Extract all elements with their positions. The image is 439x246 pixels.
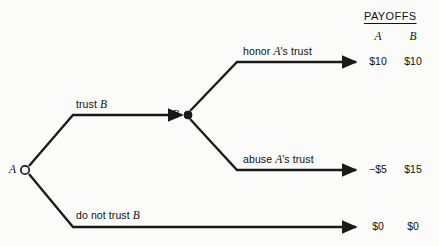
branch-label-honor-suffix: 's trust — [281, 45, 312, 57]
branch-label-abuse-prefix: abuse — [243, 153, 275, 165]
branch-honor-line — [190, 62, 356, 111]
payoffs-column-header-b: B — [398, 30, 428, 42]
branch-label-trust-b-prefix: trust — [76, 98, 100, 110]
branch-label-do-not-trust-b-italic: B — [133, 209, 140, 221]
branch-label-trust-b: trust B — [76, 98, 107, 110]
game-tree-figure: A B trust B do not trust B honor A's tru… — [0, 0, 439, 246]
payoff-honor-a: $10 — [361, 55, 395, 67]
node-label-b: B — [172, 108, 179, 120]
branch-label-abuse-suffix: 's trust — [282, 153, 313, 165]
node-b-filled-circle — [184, 111, 192, 119]
payoffs-title: PAYOFFS — [364, 10, 417, 22]
payoff-abuse-b: $15 — [396, 163, 430, 175]
branch-label-honor: honor A's trust — [243, 45, 312, 57]
branch-label-do-not-trust-b-prefix: do not trust — [76, 209, 133, 221]
payoff-no-trust-a: $0 — [361, 220, 395, 232]
branch-trust-b-line — [29, 115, 182, 166]
payoff-abuse-a: −$5 — [361, 163, 395, 175]
branch-label-do-not-trust-b: do not trust B — [76, 209, 140, 221]
branch-label-honor-prefix: honor — [243, 45, 273, 57]
node-label-a: A — [9, 163, 16, 175]
payoff-honor-b: $10 — [396, 55, 430, 67]
branch-label-honor-italic: A — [273, 45, 280, 57]
branch-label-trust-b-italic: B — [100, 98, 107, 110]
payoff-no-trust-b: $0 — [396, 220, 430, 232]
branch-label-abuse: abuse A's trust — [243, 153, 314, 165]
payoffs-column-header-a: A — [363, 30, 393, 42]
node-a-open-circle — [21, 166, 29, 174]
